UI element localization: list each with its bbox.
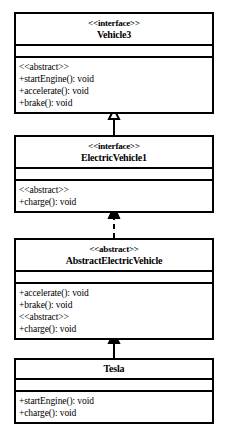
class-member: +charge(): void xyxy=(19,323,212,335)
class-name: AbstractElectricVehicle xyxy=(16,255,212,267)
class-stereotype: <<interface>> xyxy=(16,140,212,152)
class-header-tesla: Tesla xyxy=(16,360,212,380)
class-member: +brake(): void xyxy=(19,97,212,109)
class-member: +startEngine(): void xyxy=(19,73,212,85)
class-member: +charge(): void xyxy=(19,196,212,208)
class-member: +charge(): void xyxy=(19,407,212,419)
class-box-tesla[interactable]: Tesla +startEngine(): void +charge(): vo… xyxy=(14,358,214,424)
class-member: +brake(): void xyxy=(19,299,212,311)
class-operations-compartment: <<abstract>> +startEngine(): void +accel… xyxy=(16,58,212,112)
class-header-abstractelectricvehicle: <<abstract>> AbstractElectricVehicle xyxy=(16,240,212,272)
class-member: +startEngine(): void xyxy=(19,395,212,407)
class-attributes-compartment xyxy=(16,272,212,284)
class-stereotype: <<interface>> xyxy=(16,17,212,29)
class-operations-compartment: +accelerate(): void +brake(): void <<abs… xyxy=(16,284,212,338)
class-attributes-compartment xyxy=(16,46,212,58)
class-header-vehicle3: <<interface>> Vehicle3 xyxy=(16,14,212,46)
class-operations-compartment: +startEngine(): void +charge(): void xyxy=(16,392,212,422)
uml-class-diagram: <<interface>> Vehicle3 <<abstract>> +sta… xyxy=(0,0,229,426)
class-member: <<abstract>> xyxy=(19,184,212,196)
class-name: Tesla xyxy=(16,363,212,375)
class-box-abstractelectricvehicle[interactable]: <<abstract>> AbstractElectricVehicle +ac… xyxy=(14,238,214,340)
class-stereotype: <<abstract>> xyxy=(16,243,212,255)
class-member: <<abstract>> xyxy=(19,311,212,323)
class-name: ElectricVehicle1 xyxy=(16,152,212,164)
class-attributes-compartment xyxy=(16,169,212,181)
class-attributes-compartment xyxy=(16,380,212,392)
class-box-vehicle3[interactable]: <<interface>> Vehicle3 <<abstract>> +sta… xyxy=(14,12,214,114)
class-member: <<abstract>> xyxy=(19,61,212,73)
class-name: Vehicle3 xyxy=(16,29,212,41)
class-box-electricvehicle1[interactable]: <<interface>> ElectricVehicle1 <<abstrac… xyxy=(14,135,214,213)
class-header-electricvehicle1: <<interface>> ElectricVehicle1 xyxy=(16,137,212,169)
class-member: +accelerate(): void xyxy=(19,287,212,299)
class-member: +accelerate(): void xyxy=(19,85,212,97)
class-operations-compartment: <<abstract>> +charge(): void xyxy=(16,181,212,211)
